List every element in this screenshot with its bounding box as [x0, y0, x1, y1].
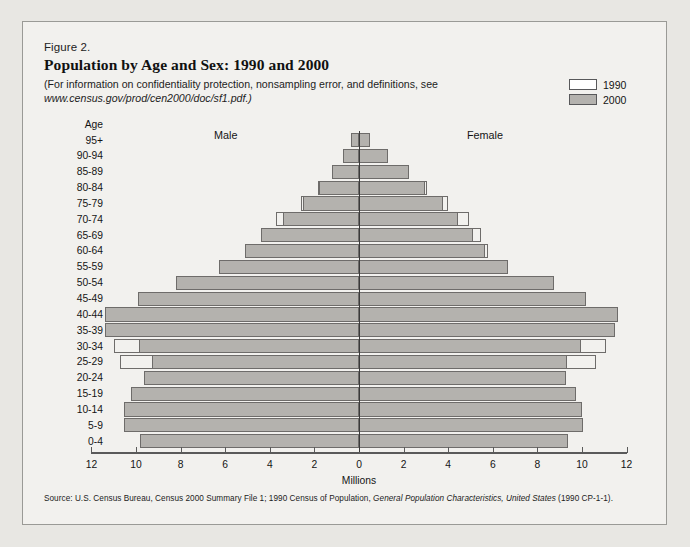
source-italic: General Population Characteristics, Unit…	[373, 494, 556, 503]
bar-2000-female-40-44	[359, 307, 618, 321]
x-tick-8	[448, 447, 449, 452]
age-label-15-19: 15-19	[59, 388, 103, 399]
age-label-20-24: 20-24	[59, 372, 103, 383]
age-label-0-4: 0-4	[59, 436, 103, 447]
bar-2000-male-30-34	[139, 339, 359, 353]
bar-2000-female-50-54	[359, 276, 554, 290]
bar-2000-female-85-89	[359, 165, 409, 179]
x-tick-label-5: 2	[302, 459, 326, 470]
female-side-label: Female	[467, 129, 503, 141]
age-label-85-89: 85-89	[59, 166, 103, 177]
bar-2000-male-10-14	[124, 402, 359, 416]
bar-2000-male-50-54	[176, 276, 359, 290]
x-axis-title: Millions	[319, 475, 399, 486]
bar-2000-male-0-4	[140, 434, 359, 448]
x-tick-4	[270, 447, 271, 452]
age-axis-header: Age	[59, 119, 103, 130]
x-tick-label-10: 8	[525, 459, 549, 470]
bar-2000-female-30-34	[359, 339, 581, 353]
x-tick-label-11: 10	[570, 459, 594, 470]
bar-2000-female-20-24	[359, 371, 566, 385]
bar-2000-female-70-74	[359, 212, 458, 226]
x-tick-label-9: 6	[481, 459, 505, 470]
bar-2000-male-35-39	[105, 323, 359, 337]
age-label-70-74: 70-74	[59, 214, 103, 225]
bar-2000-male-65-69	[261, 228, 359, 242]
age-label-10-14: 10-14	[59, 404, 103, 415]
age-label-45-49: 45-49	[59, 293, 103, 304]
age-label-90-94: 90-94	[59, 150, 103, 161]
bar-2000-male-60-64	[245, 244, 359, 258]
x-tick-label-1: 10	[124, 459, 148, 470]
x-tick-3	[225, 447, 226, 452]
x-tick-11	[582, 447, 583, 452]
age-label-30-34: 30-34	[59, 341, 103, 352]
age-label-80-84: 80-84	[59, 182, 103, 193]
x-tick-label-6: 0	[347, 459, 371, 470]
age-label-55-59: 55-59	[59, 261, 103, 272]
age-label-25-29: 25-29	[59, 356, 103, 367]
age-label-75-79: 75-79	[59, 198, 103, 209]
x-tick-2	[181, 447, 182, 452]
bar-2000-female-60-64	[359, 244, 485, 258]
figure-panel: Figure 2. Population by Age and Sex: 199…	[22, 21, 667, 525]
bar-2000-male-70-74	[283, 212, 359, 226]
bar-2000-male-5-9	[124, 418, 359, 432]
bar-2000-female-95+	[359, 133, 370, 147]
age-label-40-44: 40-44	[59, 309, 103, 320]
male-side-label: Male	[214, 129, 237, 141]
bar-2000-female-10-14	[359, 402, 582, 416]
x-tick-label-3: 6	[213, 459, 237, 470]
x-axis-line	[91, 452, 626, 454]
age-label-50-54: 50-54	[59, 277, 103, 288]
x-tick-label-4: 4	[258, 459, 282, 470]
age-label-5-9: 5-9	[59, 420, 103, 431]
bar-2000-male-40-44	[105, 307, 359, 321]
bar-2000-male-20-24	[144, 371, 359, 385]
age-label-65-69: 65-69	[59, 230, 103, 241]
bar-2000-female-5-9	[359, 418, 583, 432]
x-tick-1	[136, 447, 137, 452]
bar-2000-female-55-59	[359, 260, 508, 274]
age-label-95plus: 95+	[59, 135, 103, 146]
bar-2000-male-45-49	[138, 292, 359, 306]
x-tick-10	[537, 447, 538, 452]
population-pyramid-chart: Age Male Female Millions 95+90-9485-8980…	[23, 22, 668, 526]
bar-2000-male-55-59	[219, 260, 359, 274]
x-tick-label-7: 2	[392, 459, 416, 470]
x-tick-9	[493, 447, 494, 452]
bar-2000-female-90-94	[359, 149, 388, 163]
x-axis-endcap-right	[627, 447, 628, 453]
x-tick-label-2: 8	[169, 459, 193, 470]
bar-2000-female-65-69	[359, 228, 473, 242]
source-note: Source: U.S. Census Bureau, Census 2000 …	[44, 494, 613, 503]
bar-2000-female-80-84	[359, 181, 425, 195]
bar-2000-male-15-19	[131, 387, 359, 401]
x-tick-7	[404, 447, 405, 452]
source-text: Source: U.S. Census Bureau, Census 2000 …	[44, 494, 373, 503]
bar-2000-female-25-29	[359, 355, 567, 369]
bar-2000-male-25-29	[152, 355, 359, 369]
bar-2000-female-75-79	[359, 196, 443, 210]
age-label-35-39: 35-39	[59, 325, 103, 336]
bar-2000-female-35-39	[359, 323, 615, 337]
bar-2000-male-80-84	[319, 181, 359, 195]
bar-2000-female-45-49	[359, 292, 586, 306]
source-tail: (1990 CP-1-1).	[556, 494, 613, 503]
x-tick-label-0: 12	[79, 459, 103, 470]
x-tick-label-12: 12	[615, 459, 639, 470]
x-tick-5	[314, 447, 315, 452]
bar-2000-male-90-94	[343, 149, 359, 163]
center-axis-line	[359, 131, 361, 452]
bar-2000-male-75-79	[303, 196, 359, 210]
x-tick-label-8: 4	[436, 459, 460, 470]
x-axis-endcap-left	[91, 447, 92, 453]
bar-2000-male-85-89	[332, 165, 359, 179]
bar-2000-female-15-19	[359, 387, 576, 401]
age-label-60-64: 60-64	[59, 245, 103, 256]
